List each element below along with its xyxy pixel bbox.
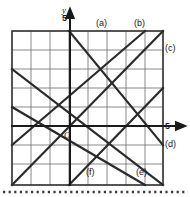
line-label-d: (d) [165,140,176,149]
line-label-b: (b) [134,19,145,28]
x-axis-tick-label: 5 [165,122,170,131]
line-label-a: (a) [96,19,107,28]
diagonal-lines [12,31,163,185]
coordinate-grid-figure: y 5 5 x O (a) (b) (c) (d) (e) (f) [0,0,190,197]
y-axis-tick-label: 5 [62,14,67,23]
plot-svg [0,0,190,197]
y-axis-arrowhead [66,9,73,18]
line-label-e: (e) [136,168,147,177]
x-axis-label: x [175,121,179,131]
origin-label: O [64,131,71,140]
line-label-c: (c) [165,44,176,53]
line-b [69,88,163,185]
line-label-f: (f) [86,168,95,177]
